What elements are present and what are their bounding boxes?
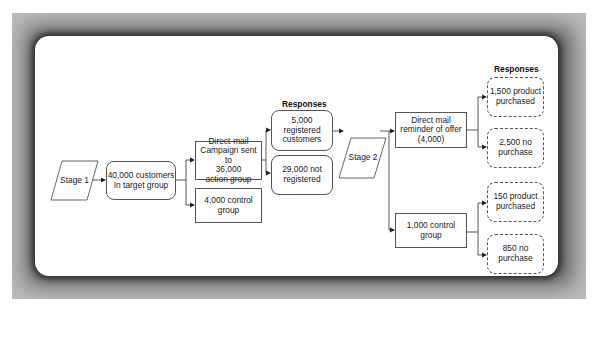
reminder-no-purchase-label: 2,500 no purchase xyxy=(498,138,532,157)
reminder-purchased-label: 1,500 product purchased xyxy=(490,87,541,106)
stage2-node: Stage 2 xyxy=(340,138,386,178)
control-group-2-node: 1,000 control group xyxy=(395,213,467,248)
reminder-purchased-node: 1,500 product purchased xyxy=(487,77,544,117)
control-group-1-node: 4,000 control group xyxy=(195,188,262,223)
stage1-label: Stage 1 xyxy=(60,176,89,186)
target-group-node: 40,000 customers In target group xyxy=(106,161,176,200)
not-registered-label: 29,000 not registered xyxy=(282,165,322,184)
stage2-label: Stage 2 xyxy=(349,153,378,163)
control-group-2-label: 1,000 control group xyxy=(407,221,455,240)
registered-node: 5,000 registered customers xyxy=(271,110,333,151)
control-purchased-node: 150 product purchased xyxy=(487,182,544,222)
registered-label: 5,000 registered customers xyxy=(272,116,332,145)
reminder-label: Direct mail reminder of offer (4,000) xyxy=(400,116,461,145)
responses-heading-2: Responses xyxy=(494,64,539,74)
reminder-no-purchase-node: 2,500 no purchase xyxy=(487,128,544,168)
responses-heading-1: Responses xyxy=(282,99,327,109)
reminder-node: Direct mail reminder of offer (4,000) xyxy=(395,112,467,148)
stage1-node: Stage 1 xyxy=(51,161,98,200)
action-group-node: Direct-mail Campaign sent to 36,000 acti… xyxy=(195,141,262,180)
action-group-label: Direct-mail Campaign sent to 36,000 acti… xyxy=(196,137,261,185)
target-group-label: 40,000 customers In target group xyxy=(108,171,175,190)
control-group-1-label: 4,000 control group xyxy=(204,196,252,215)
control-no-purchase-node: 850 no purchase xyxy=(487,234,544,274)
not-registered-node: 29,000 not registered xyxy=(271,155,333,195)
control-purchased-label: 150 product purchased xyxy=(493,192,537,211)
control-no-purchase-label: 850 no purchase xyxy=(498,244,532,263)
